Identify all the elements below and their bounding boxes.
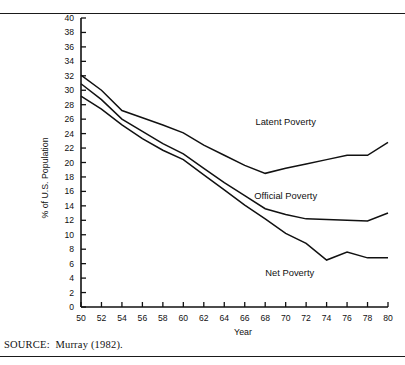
x-tick-label: 52 <box>97 313 107 323</box>
y-tick-label: 26 <box>64 114 74 124</box>
x-axis: 50525456586062646668707274767880 <box>76 302 393 323</box>
y-tick-label: 24 <box>64 129 74 139</box>
x-axis-title: Year <box>234 327 252 337</box>
poverty-trends-figure: 0246810121416182022242628303234363840 50… <box>0 0 405 365</box>
y-tick-label: 18 <box>64 172 74 182</box>
y-tick-label: 16 <box>64 186 74 196</box>
series-labels-group: Latent PovertyOfficial PovertyNet Povert… <box>254 116 317 278</box>
y-tick-label: 22 <box>64 143 74 153</box>
y-tick-label: 20 <box>64 158 74 168</box>
x-tick-label: 68 <box>260 313 270 323</box>
chart-series-group <box>81 75 388 260</box>
y-tick-label: 6 <box>69 259 74 269</box>
x-tick-label: 50 <box>76 313 86 323</box>
series-line-latent-poverty <box>81 75 388 173</box>
line-chart: 0246810121416182022242628303234363840 50… <box>0 13 405 343</box>
x-tick-label: 64 <box>219 313 229 323</box>
x-tick-label: 76 <box>342 313 352 323</box>
y-tick-label: 10 <box>64 230 74 240</box>
y-tick-label: 32 <box>64 71 74 81</box>
figure-bottom-rule <box>0 356 405 357</box>
y-tick-label: 12 <box>64 215 74 225</box>
y-tick-label: 36 <box>64 42 74 52</box>
x-tick-label: 62 <box>199 313 209 323</box>
x-tick-label: 70 <box>281 313 291 323</box>
x-tick-label: 54 <box>117 313 127 323</box>
y-tick-label: 14 <box>64 201 74 211</box>
y-tick-label: 2 <box>69 288 74 298</box>
y-axis: 0246810121416182022242628303234363840 <box>64 13 86 312</box>
series-label: Net Poverty <box>265 267 314 278</box>
x-tick-label: 74 <box>322 313 332 323</box>
y-tick-label: 28 <box>64 100 74 110</box>
x-tick-label: 72 <box>301 313 311 323</box>
series-line-official-poverty <box>81 84 388 221</box>
series-label: Latent Poverty <box>255 116 316 127</box>
x-tick-label: 58 <box>158 313 168 323</box>
chart-plot-area: 0246810121416182022242628303234363840 50… <box>0 13 405 343</box>
y-tick-label: 0 <box>69 302 74 312</box>
y-tick-label: 38 <box>64 27 74 37</box>
y-tick-label: 8 <box>69 244 74 254</box>
series-line-net-poverty <box>81 96 388 260</box>
y-tick-label: 34 <box>64 56 74 66</box>
source-note: SOURCE: Murray (1982). <box>4 339 123 350</box>
x-tick-label: 56 <box>138 313 148 323</box>
x-tick-label: 60 <box>179 313 189 323</box>
y-tick-label: 40 <box>64 13 74 23</box>
y-axis-title: % of U.S. Population <box>40 137 50 218</box>
x-tick-label: 78 <box>363 313 373 323</box>
y-tick-label: 30 <box>64 85 74 95</box>
x-tick-label: 66 <box>240 313 250 323</box>
x-tick-label: 80 <box>383 313 393 323</box>
series-label: Official Poverty <box>254 190 317 201</box>
y-tick-label: 4 <box>69 273 74 283</box>
